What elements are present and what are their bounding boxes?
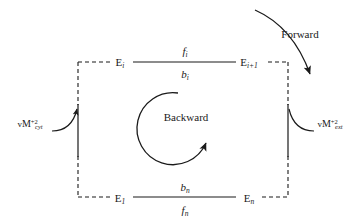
species-compartment: cyt bbox=[35, 123, 43, 130]
forward-annotation-label: Forward bbox=[281, 29, 318, 40]
state-label-top-left: Ei bbox=[116, 57, 125, 68]
state-label-top-right: Ei+1 bbox=[240, 57, 258, 68]
state-subscript: i bbox=[122, 61, 124, 70]
state-symbol: E bbox=[240, 56, 247, 68]
forward-direction-arrow bbox=[255, 10, 310, 74]
state-subscript: i+1 bbox=[247, 61, 258, 70]
kinetic-cycle-figure: Ei Ei+1 E1 En fi bi bn fn vM+2cyt vM+2ex… bbox=[0, 0, 356, 222]
species-label-cytosolic: vM+2cyt bbox=[17, 119, 42, 129]
state-subscript: 1 bbox=[121, 197, 125, 206]
state-symbol: E bbox=[115, 192, 122, 204]
rate-subscript: i bbox=[187, 73, 189, 82]
state-symbol: E bbox=[244, 192, 251, 204]
rate-subscript: n bbox=[185, 209, 189, 218]
state-subscript: n bbox=[250, 197, 254, 206]
species-compartment: ext bbox=[335, 123, 343, 130]
rate-subscript: i bbox=[185, 50, 187, 59]
rate-subscript: n bbox=[186, 186, 190, 195]
ion-influx-arrow-left bbox=[52, 109, 77, 131]
rate-label-bottom-forward: fn bbox=[182, 205, 189, 216]
backward-annotation-label: Backward bbox=[164, 112, 209, 123]
state-label-bottom-right: En bbox=[244, 193, 254, 204]
backward-direction-arrow bbox=[137, 93, 206, 165]
species-label-external: vM+2ext bbox=[317, 119, 342, 129]
rate-label-top-backward: bi bbox=[181, 69, 189, 80]
state-symbol: E bbox=[116, 56, 123, 68]
state-label-bottom-left: E1 bbox=[115, 193, 125, 204]
rate-label-top-forward: fi bbox=[182, 46, 187, 57]
rate-label-bottom-backward: bn bbox=[180, 182, 189, 193]
ion-efflux-arrow-right bbox=[289, 109, 314, 131]
